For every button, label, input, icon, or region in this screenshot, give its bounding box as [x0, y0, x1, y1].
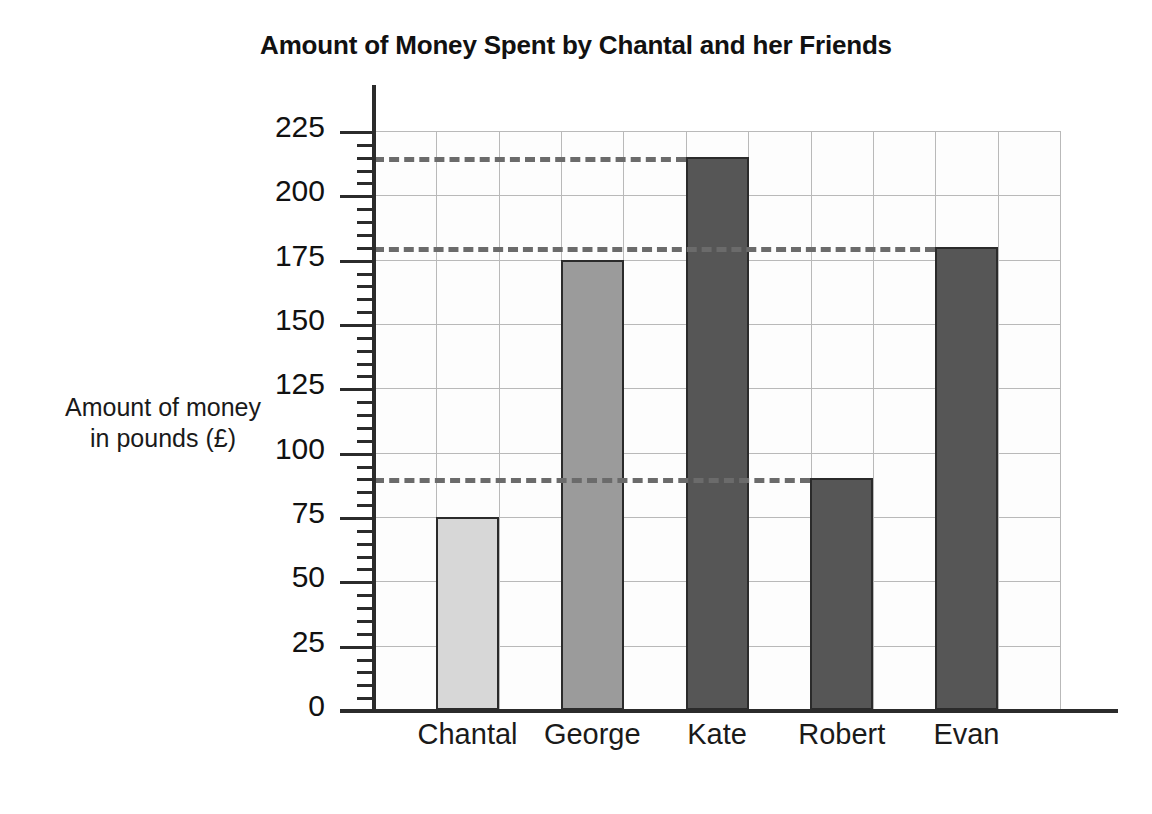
y-axis-label-line-2: in pounds (£): [38, 423, 288, 454]
y-tick-major: [340, 388, 374, 391]
y-tick-minor: [357, 182, 374, 185]
y-tick-label: 75: [292, 496, 325, 530]
y-tick-minor: [357, 568, 374, 571]
y-tick-major: [340, 581, 374, 584]
y-tick-major: [340, 646, 374, 649]
y-tick-label: 200: [275, 174, 325, 208]
y-tick-major: [340, 195, 374, 198]
y-tick-minor: [357, 337, 374, 340]
y-axis-label-line-1: Amount of money: [38, 392, 288, 423]
gridline-vertical: [1060, 131, 1061, 710]
bar-evan: [935, 247, 998, 710]
y-tick-label: 150: [275, 303, 325, 337]
y-tick-minor: [357, 170, 374, 173]
y-axis-label: Amount of money in pounds (£): [38, 392, 288, 455]
y-tick-minor: [357, 697, 374, 700]
y-tick-minor: [357, 401, 374, 404]
y-tick-major: [340, 131, 374, 134]
category-label-evan: Evan: [876, 718, 1056, 751]
y-tick-minor: [357, 478, 374, 481]
y-axis-line: [372, 85, 376, 712]
bar-robert: [810, 478, 873, 710]
y-tick-minor: [357, 247, 374, 250]
y-tick-minor: [357, 530, 374, 533]
y-tick-minor: [357, 157, 374, 160]
y-tick-major: [340, 453, 374, 456]
y-tick-major: [340, 324, 374, 327]
reference-line-180: [374, 247, 935, 252]
y-tick-minor: [357, 491, 374, 494]
y-tick-major: [340, 260, 374, 263]
y-tick-minor: [357, 298, 374, 301]
y-tick-minor: [357, 208, 374, 211]
y-tick-minor: [357, 144, 374, 147]
y-tick-minor: [357, 594, 374, 597]
y-tick-minor: [357, 311, 374, 314]
y-tick-label: 25: [292, 625, 325, 659]
y-tick-minor: [357, 350, 374, 353]
y-tick-minor: [357, 556, 374, 559]
y-tick-minor: [357, 440, 374, 443]
y-tick-minor: [357, 684, 374, 687]
y-tick-minor: [357, 375, 374, 378]
y-tick-label: 100: [275, 432, 325, 466]
y-tick-minor: [357, 620, 374, 623]
y-tick-label: 225: [275, 110, 325, 144]
y-tick-minor: [357, 633, 374, 636]
y-tick-minor: [357, 659, 374, 662]
bar-george: [561, 260, 624, 710]
bar-chantal: [436, 517, 499, 710]
y-tick-minor: [357, 466, 374, 469]
y-tick-label: 175: [275, 239, 325, 273]
y-tick-label: 125: [275, 367, 325, 401]
gridline-horizontal: [374, 131, 1060, 132]
y-tick-minor: [357, 607, 374, 610]
y-tick-minor: [357, 363, 374, 366]
y-tick-minor: [357, 671, 374, 674]
chart-canvas: Amount of Money Spent by Chantal and her…: [0, 0, 1152, 814]
y-tick-label: 0: [308, 689, 325, 723]
y-tick-major: [340, 517, 374, 520]
y-tick-minor: [357, 414, 374, 417]
reference-line-215: [374, 157, 686, 162]
chart-title: Amount of Money Spent by Chantal and her…: [0, 30, 1152, 61]
x-axis-line: [340, 709, 1118, 713]
y-tick-major: [340, 710, 374, 713]
reference-line-90: [374, 478, 810, 483]
y-tick-label: 50: [292, 560, 325, 594]
y-tick-minor: [357, 221, 374, 224]
y-tick-minor: [357, 427, 374, 430]
y-tick-minor: [357, 504, 374, 507]
y-tick-minor: [357, 273, 374, 276]
bar-kate: [686, 157, 749, 710]
y-tick-minor: [357, 285, 374, 288]
y-tick-minor: [357, 543, 374, 546]
plot-area: [374, 131, 1060, 710]
y-tick-minor: [357, 234, 374, 237]
